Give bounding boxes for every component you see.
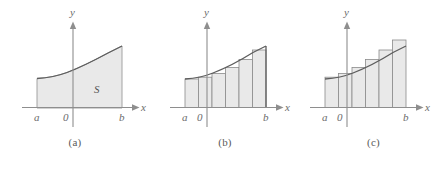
panel-b-tick-origin: 0: [197, 111, 203, 123]
panel-c-caption: (c): [300, 136, 447, 148]
rect-bar: [393, 40, 407, 108]
panel-c-y-axis-label: y: [343, 6, 349, 18]
panel-a-y-axis-label: y: [69, 6, 75, 18]
y-axis-arrow-a: [70, 22, 76, 30]
panel-a-svg: y x a 0 b S: [0, 0, 150, 135]
panel-b-plot: y x a 0 b: [150, 0, 300, 135]
x-axis-arrow-b: [276, 104, 284, 110]
panel-c: y x a 0 b (c): [300, 0, 447, 170]
panel-a-region-label: S: [94, 83, 100, 95]
panel-b-caption: (b): [150, 136, 300, 148]
x-axis-arrow-a: [132, 104, 140, 110]
y-axis-arrow-c: [344, 22, 350, 30]
figure-container: y x a 0 b S (a): [0, 0, 447, 170]
panel-b-y-axis-label: y: [203, 6, 209, 18]
rect-bar: [185, 79, 199, 108]
panel-c-tick-origin: 0: [337, 111, 343, 123]
panel-c-x-axis-label: x: [424, 101, 430, 113]
rect-bar: [226, 68, 240, 108]
panel-a-tick-b: b: [119, 111, 125, 123]
panel-a-caption: (a): [0, 136, 150, 148]
panel-a-plot: y x a 0 b S: [0, 0, 150, 135]
panel-a: y x a 0 b S (a): [0, 0, 150, 170]
panel-b-x-axis-label: x: [284, 101, 290, 113]
panel-c-tick-a: a: [322, 111, 328, 123]
panel-c-plot: y x a 0 b: [300, 0, 447, 135]
rect-bar: [212, 74, 226, 108]
panel-c-svg: y x a 0 b: [300, 0, 447, 135]
rect-bar: [339, 74, 353, 108]
x-axis-arrow-c: [416, 104, 424, 110]
panel-b-tick-b: b: [263, 111, 269, 123]
rect-bar: [352, 68, 366, 108]
panel-a-x-axis-label: x: [140, 101, 146, 113]
panel-c-tick-b: b: [403, 111, 409, 123]
rect-bar: [239, 60, 253, 108]
panel-a-tick-origin: 0: [63, 111, 69, 123]
panel-a-tick-a: a: [34, 111, 40, 123]
rect-bar: [253, 50, 267, 108]
panel-b: y x a 0 b (b): [150, 0, 300, 170]
panel-b-tick-a: a: [182, 111, 188, 123]
rect-bar: [199, 77, 213, 107]
panel-b-svg: y x a 0 b: [150, 0, 300, 135]
rect-bar: [325, 77, 339, 107]
rect-bar: [379, 50, 393, 108]
y-axis-arrow-b: [204, 22, 210, 30]
